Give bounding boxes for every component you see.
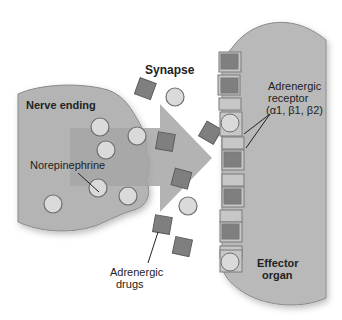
effector-organ-label-2: organ	[262, 269, 293, 281]
adrenergic-receptor-label-1: Adrenergic	[268, 80, 321, 92]
adrenergic-drugs-label-2: drugs	[116, 278, 144, 290]
effector-organ-label-1: Effector	[257, 257, 299, 269]
adrenergic-receptor-label-2: receptor	[268, 92, 308, 104]
synapse-label: Synapse	[145, 64, 194, 76]
norepinephrine-label: Norepinephrine	[30, 159, 105, 171]
nerve-ending-label: Nerve ending	[26, 99, 96, 111]
receptors	[218, 52, 244, 272]
adrenergic-receptor-label-3: (α1, β1, β2)	[266, 104, 323, 116]
adrenergic-drugs-label-1: Adrenergic	[110, 266, 163, 278]
